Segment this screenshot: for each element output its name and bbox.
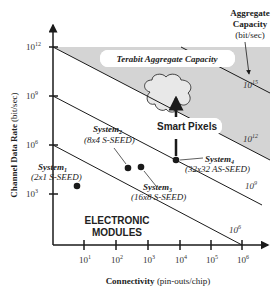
system-2-label: System2 [93,124,122,135]
ytick-3: 103 [26,188,38,199]
iso-label-9: 109 [245,180,257,191]
system-2-desc: (8x4 S-SEED) [84,135,135,145]
aggregate-title-2: Capacity [233,19,268,29]
aggregate-units: (bit/sec) [235,30,265,40]
system-3-desc: (16x8 S-SEED) [131,192,186,202]
ytick-6: 106 [26,139,38,150]
aggregate-title-1: Aggregate [230,8,269,18]
system-4-pointer [180,158,203,160]
electronic-label-2: MODULES [92,227,142,238]
chart: 1012 109 106 103 101 102 103 104 105 106… [0,0,277,292]
xtick-5: 105 [206,254,218,265]
electronic-label-1: ELECTRONIC [85,215,150,226]
xtick-3: 103 [143,254,155,265]
xtick-2: 102 [111,254,123,265]
x-axis-title: Connectivity (pin-outs/chip) [106,276,211,286]
system-1-desc: (2x1 S-SEED) [31,172,82,182]
iso-label-6: 106 [229,224,241,235]
point-system-3 [138,164,145,171]
xtick-1: 101 [79,254,91,265]
system-4-desc: (32x32 AS-SEED) [185,164,250,174]
y-axis-title: Channel Data Rate (bit/sec) [9,92,19,197]
xtick-6: 106 [237,254,249,265]
ytick-12: 1012 [26,41,41,52]
point-system-4 [173,157,180,164]
xtick-4: 104 [175,254,187,265]
point-system-2 [125,165,132,172]
smart-pixels-label: Smart Pixels [157,121,217,132]
terabit-label: Terabit Aggregate Capacity [117,54,219,64]
ytick-9: 109 [26,90,38,101]
point-system-1 [74,183,81,190]
